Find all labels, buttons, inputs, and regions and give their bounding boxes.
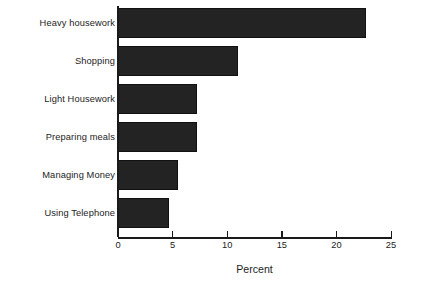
- x-tick-label-10: 10: [215, 240, 239, 251]
- category-label-light-housework: Light Housework: [0, 94, 115, 104]
- category-label-using-telephone: Using Telephone: [0, 208, 115, 218]
- x-tick-label-5: 5: [161, 240, 185, 251]
- category-label-preparing-meals: Preparing meals: [0, 132, 115, 142]
- x-tick-label-20: 20: [324, 240, 348, 251]
- bar-chart: Heavy housework Shopping Light Housework…: [0, 0, 428, 290]
- x-axis-title: Percent: [0, 263, 428, 275]
- category-label-managing-money: Managing Money: [0, 170, 115, 180]
- bar-shopping: [118, 46, 238, 76]
- bar-using-telephone: [118, 198, 169, 228]
- category-label-shopping: Shopping: [0, 56, 115, 66]
- x-axis-line: [118, 237, 392, 239]
- x-tick-label-25: 25: [379, 240, 403, 251]
- x-tick-0: [118, 231, 119, 237]
- bar-managing-money: [118, 160, 178, 190]
- bar-light-housework: [118, 84, 197, 114]
- x-axis-title-text: Percent: [236, 263, 273, 275]
- bar-preparing-meals: [118, 122, 197, 152]
- x-tick-20: [336, 231, 337, 237]
- x-tick-5: [172, 231, 173, 237]
- x-tick-15: [281, 231, 282, 237]
- bar-heavy-housework: [118, 8, 366, 38]
- x-tick-label-15: 15: [270, 240, 294, 251]
- category-label-heavy-housework: Heavy housework: [0, 18, 115, 28]
- y-axis-line: [117, 6, 119, 237]
- x-tick-label-0: 0: [106, 240, 130, 251]
- x-tick-25: [391, 231, 392, 237]
- x-tick-10: [227, 231, 228, 237]
